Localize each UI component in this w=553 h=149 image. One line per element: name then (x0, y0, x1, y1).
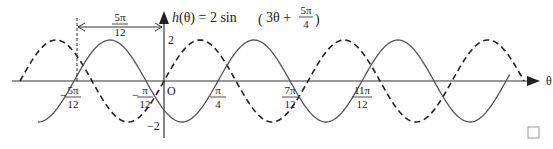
svg-text:3θ +: 3θ + (266, 10, 291, 25)
svg-text:5π: 5π (300, 4, 312, 16)
svg-text:11π: 11π (354, 84, 371, 96)
origin-label: O (167, 84, 176, 98)
x-axis-arrow-icon (527, 76, 540, 86)
y-tick-neg2: −2 (147, 119, 160, 133)
x-tick-3: 7π12 (282, 84, 298, 110)
svg-text:12: 12 (357, 98, 368, 110)
x-tick-4: 11π12 (352, 84, 372, 110)
shift-label: 5π 12 (112, 11, 128, 38)
svg-text:−: − (132, 88, 139, 102)
svg-text:12: 12 (284, 98, 295, 110)
x-tick-2: π4 (210, 84, 226, 110)
svg-text:π: π (215, 84, 221, 96)
x-tick-0: −5π12 (60, 84, 81, 110)
end-of-proof-square-icon (528, 127, 539, 138)
svg-text:12: 12 (115, 26, 126, 38)
svg-text:−: − (60, 88, 67, 102)
y-tick-2: 2 (168, 33, 174, 47)
svg-text:5π: 5π (114, 11, 126, 23)
svg-text:π: π (142, 84, 148, 96)
svg-text:4: 4 (215, 98, 221, 110)
svg-text:5π: 5π (67, 84, 79, 96)
left-paren: ( (258, 12, 263, 28)
svg-text:12: 12 (67, 98, 78, 110)
svg-text:h(θ) = 2 sin: h(θ) = 2 sin (172, 10, 237, 26)
chart-title: h(θ) = 2 sin ( 3θ + 5π 4 ) (172, 4, 320, 30)
sine-chart: 5π 12 h(θ) = 2 sin ( 3θ + 5π 4 ) 2 −2 O … (0, 0, 553, 149)
svg-text:4: 4 (303, 18, 309, 30)
svg-text:7π: 7π (284, 84, 296, 96)
right-paren: ) (315, 12, 320, 28)
y-axis-arrow-icon (159, 11, 169, 24)
x-axis-label: θ (546, 74, 552, 88)
svg-text:12: 12 (140, 98, 151, 110)
